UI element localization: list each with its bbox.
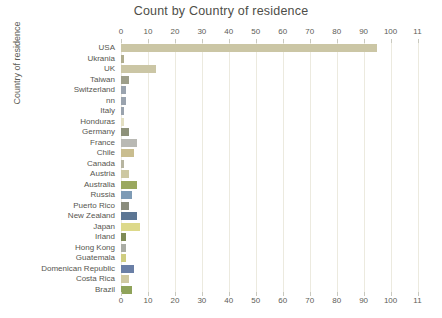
chart-title: Count by Country of residence <box>0 4 442 18</box>
bar-row <box>121 274 431 285</box>
category-label: Irland <box>0 232 118 243</box>
bar <box>121 86 126 94</box>
x-axis-tick <box>283 292 284 296</box>
category-label: Hong Kong <box>0 243 118 254</box>
bar-row <box>121 211 431 222</box>
category-label: Guatemala <box>0 253 118 264</box>
bar-row <box>121 201 431 212</box>
plot-area <box>121 43 431 295</box>
category-label: Switzerland <box>0 85 118 96</box>
category-label: Canada <box>0 159 118 170</box>
bar <box>121 139 137 147</box>
bar-row <box>121 64 431 75</box>
x-axis-tick <box>121 292 122 296</box>
bar <box>121 97 126 105</box>
x-axis-tick-label: 100 <box>384 27 397 36</box>
x-axis-bottom: 010203040506070809010011 <box>121 296 431 312</box>
bar-row <box>121 180 431 191</box>
bar <box>121 223 140 231</box>
category-label: France <box>0 138 118 149</box>
bar-row <box>121 43 431 54</box>
x-axis-tick-label: 80 <box>332 27 341 36</box>
bar-row <box>121 127 431 138</box>
bar-row <box>121 253 431 264</box>
category-label: Russia <box>0 190 118 201</box>
x-axis-tick <box>256 292 257 296</box>
category-label: nn <box>0 96 118 107</box>
x-axis-tick-label: 30 <box>197 27 206 36</box>
category-label: Honduras <box>0 117 118 128</box>
x-axis-top: 010203040506070809010011 <box>121 27 431 43</box>
bar-row <box>121 54 431 65</box>
bar <box>121 191 132 199</box>
category-label: Austria <box>0 169 118 180</box>
bar-row <box>121 264 431 275</box>
bar-row <box>121 222 431 233</box>
bar <box>121 65 156 73</box>
x-axis-tick-label: 20 <box>170 27 179 36</box>
bar <box>121 286 132 294</box>
bar <box>121 44 377 52</box>
bar-series <box>121 43 431 295</box>
x-axis-tick-label: 60 <box>278 27 287 36</box>
x-axis-tick <box>337 292 338 296</box>
x-axis-tick <box>175 292 176 296</box>
bar-row <box>121 85 431 96</box>
x-axis-tick <box>364 292 365 296</box>
bar-row <box>121 96 431 107</box>
category-label: Japan <box>0 222 118 233</box>
category-label: Germany <box>0 127 118 138</box>
category-label: UK <box>0 64 118 75</box>
category-labels: USAUkraniaUKTaiwanSwitzerlandnnItalyHond… <box>0 43 118 295</box>
bar-row <box>121 285 431 296</box>
x-axis-tick-label: 20 <box>170 296 179 305</box>
bar <box>121 128 129 136</box>
x-axis-tick <box>202 292 203 296</box>
x-axis-tick-label: 0 <box>119 27 123 36</box>
x-axis-tick-label: 50 <box>251 296 260 305</box>
bar <box>121 265 134 273</box>
category-label: Costa Rica <box>0 274 118 285</box>
bar <box>121 55 124 63</box>
x-axis-tick-label: 100 <box>384 296 397 305</box>
x-axis-tick <box>310 292 311 296</box>
x-axis-tick-label: 30 <box>197 296 206 305</box>
bar <box>121 233 126 241</box>
x-axis-tick-label: 60 <box>278 296 287 305</box>
bar-row <box>121 106 431 117</box>
bar <box>121 181 137 189</box>
bar <box>121 149 134 157</box>
bar <box>121 160 124 168</box>
x-axis-tick-label: 11 <box>413 296 421 305</box>
bar <box>121 76 129 84</box>
bar <box>121 275 129 283</box>
x-axis-tick-label: 80 <box>332 296 341 305</box>
x-axis-tick <box>391 292 392 296</box>
bar-row <box>121 75 431 86</box>
bar-row <box>121 148 431 159</box>
bar <box>121 212 137 220</box>
category-label: Domenican Republic <box>0 264 118 275</box>
category-label: Chile <box>0 148 118 159</box>
bar-row <box>121 159 431 170</box>
x-axis-tick-label: 10 <box>144 296 153 305</box>
x-axis-tick-label: 40 <box>224 296 233 305</box>
category-label: Brazil <box>0 285 118 296</box>
x-axis-tick-label: 10 <box>144 27 153 36</box>
bar <box>121 244 126 252</box>
x-axis-tick-label: 90 <box>359 296 368 305</box>
category-label: New Zealand <box>0 211 118 222</box>
bar-row <box>121 243 431 254</box>
x-axis-tick <box>229 292 230 296</box>
category-label: Puerto Rico <box>0 201 118 212</box>
bar <box>121 170 129 178</box>
category-label: Taiwan <box>0 75 118 86</box>
bar <box>121 107 124 115</box>
x-axis-tick-label: 90 <box>359 27 368 36</box>
x-axis-tick-label: 70 <box>305 27 314 36</box>
x-axis-tick-label: 70 <box>305 296 314 305</box>
bar-chart: Count by Country of residence Country of… <box>0 0 442 318</box>
bar-row <box>121 169 431 180</box>
category-label: Australia <box>0 180 118 191</box>
bar-row <box>121 232 431 243</box>
